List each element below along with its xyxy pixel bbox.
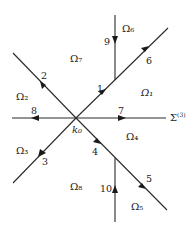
contour-label-3: 3 — [42, 156, 48, 167]
region-omega-1: Ω₁ — [140, 87, 153, 98]
region-omega-6: Ω₆ — [122, 23, 134, 34]
sigma-label: Σ(3) — [170, 111, 186, 123]
arrow-9-icon — [112, 36, 118, 44]
contour-label-1: 1 — [97, 83, 103, 94]
arrow-10-icon — [112, 185, 118, 193]
contour-label-4: 4 — [92, 146, 98, 157]
contour-label-10: 10 — [100, 183, 112, 194]
contour-label-7: 7 — [118, 105, 124, 116]
center-point-label: k₀ — [72, 124, 82, 135]
region-omega-2: Ω₂ — [16, 91, 28, 102]
arrow-5-icon — [138, 183, 146, 189]
region-omega-4: Ω₄ — [126, 131, 138, 142]
contour-label-9: 9 — [104, 36, 110, 47]
sigma-superscript: (3) — [177, 111, 186, 118]
contour-label-8: 8 — [31, 105, 37, 116]
contour-diagram: 1 2 3 4 5 6 7 8 9 10 Ω₁ Ω₂ Ω₃ Ω₄ Ω₅ Ω₆ Ω… — [0, 0, 196, 237]
arrow-2-icon — [40, 81, 46, 89]
contour-label-5: 5 — [146, 173, 152, 184]
arrow-4-icon — [93, 138, 101, 144]
contour-label-6: 6 — [146, 55, 152, 66]
contour-lower-right — [76, 118, 167, 210]
arrow-6-icon — [141, 46, 149, 52]
contour-label-2: 2 — [41, 70, 47, 81]
region-omega-5: Ω₅ — [131, 201, 143, 212]
region-omega-8: Ω₈ — [70, 181, 82, 192]
region-omega-7: Ω₇ — [70, 53, 82, 64]
sigma-symbol: Σ — [170, 112, 177, 123]
region-omega-3: Ω₃ — [16, 145, 28, 156]
